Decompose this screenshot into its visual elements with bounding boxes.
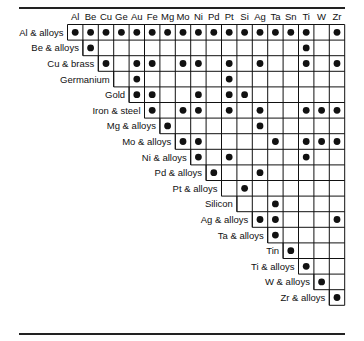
mark-ni-pt [226, 154, 233, 161]
mark-au-si [241, 91, 248, 98]
row-label: Mg & alloys [107, 120, 156, 131]
row-label: Ni & alloys [142, 152, 187, 163]
mark-mo-w [318, 138, 325, 145]
bottom-rule [19, 333, 345, 335]
mark-w-w [318, 279, 325, 286]
mark-fe-ag [257, 107, 264, 114]
row-label: Pd & alloys [155, 167, 203, 178]
mark-ag-ta [272, 216, 279, 223]
mark-sn-sn [287, 247, 294, 254]
column-header-al: Al [71, 11, 79, 22]
column-header-fe: Fe [147, 11, 158, 22]
mark-au-pt [226, 91, 233, 98]
column-header-mo: Mo [176, 11, 189, 22]
column-header-si: Si [240, 11, 248, 22]
column-header-w: W [317, 11, 326, 22]
row-label: Mo & alloys [122, 136, 171, 147]
column-header-mg: Mg [161, 11, 174, 22]
column-header-au: Au [131, 11, 143, 22]
row-label: Be & alloys [31, 42, 79, 53]
mark-cu-cu [103, 60, 110, 67]
row-label: Ti & alloys [251, 261, 295, 272]
mark-fe-pt [226, 107, 233, 114]
mark-mo-ta [272, 138, 279, 145]
column-header-ni: Ni [194, 11, 203, 22]
row-label: Ag & alloys [201, 214, 249, 225]
row-label: Zr & alloys [280, 292, 325, 303]
mark-al-pd [210, 29, 217, 36]
mark-al-fe [149, 29, 156, 36]
mark-al-al [72, 29, 79, 36]
row-label: Al & alloys [19, 27, 64, 38]
mark-pd-pd [210, 169, 217, 176]
mark-cu-zr [334, 60, 341, 67]
column-header-be: Be [85, 11, 97, 22]
mark-cu-ti [303, 60, 310, 67]
mark-cu-au [133, 60, 140, 67]
column-header-pt: Pt [225, 11, 234, 22]
mark-al-be [87, 29, 94, 36]
column-header-zr: Zr [333, 11, 342, 22]
mark-fe-fe [149, 107, 156, 114]
mark-au-ni [195, 91, 202, 98]
row-label: Gold [105, 89, 125, 100]
mark-cu-fe [149, 60, 156, 67]
mark-al-ge [118, 29, 125, 36]
mark-cu-ni [195, 60, 202, 67]
column-header-pd: Pd [208, 11, 220, 22]
mark-al-cu [103, 29, 110, 36]
compatibility-matrix: AlBeCuGeAuFeMgMoNiPdPtSiAgTaSnTiWZr Al &… [0, 0, 364, 341]
row-label: Cu & brass [47, 58, 94, 69]
column-header-cu: Cu [100, 11, 112, 22]
row-label: Silicon [205, 198, 233, 209]
mark-al-sn [287, 29, 294, 36]
mark-mg-mg [164, 123, 171, 130]
mark-al-pt [226, 29, 233, 36]
mark-fe-zr [334, 107, 341, 114]
mark-au-fe [149, 91, 156, 98]
column-headers: AlBeCuGeAuFeMgMoNiPdPtSiAgTaSnTiWZr [71, 11, 342, 22]
row-label: Germanium [60, 74, 110, 85]
mark-mo-zr [334, 138, 341, 145]
mark-au-au [133, 91, 140, 98]
mark-al-ta [272, 29, 279, 36]
mark-ag-ag [257, 216, 264, 223]
mark-be-ti [303, 45, 310, 52]
mark-al-ag [257, 29, 264, 36]
mark-al-mg [164, 29, 171, 36]
mark-fe-w [318, 107, 325, 114]
mark-cu-pt [226, 60, 233, 67]
mark-al-zr [334, 29, 341, 36]
mark-al-si [241, 29, 248, 36]
column-header-ge: Ge [115, 11, 128, 22]
grid-lines [68, 25, 345, 306]
column-header-ti: Ti [302, 11, 310, 22]
mark-ni-ti [303, 154, 310, 161]
mark-al-ni [195, 29, 202, 36]
mark-ge-au [133, 76, 140, 83]
mark-ge-pt [226, 76, 233, 83]
mark-mo-ni [195, 138, 202, 145]
mark-si-ta [272, 201, 279, 208]
mark-mg-ag [257, 123, 264, 130]
mark-ta-ta [272, 232, 279, 239]
mark-pt-si [241, 185, 248, 192]
mark-fe-ti [303, 107, 310, 114]
mark-cu-ag [257, 60, 264, 67]
mark-mo-ti [303, 138, 310, 145]
row-label: Pt & alloys [173, 183, 218, 194]
mark-al-au [133, 29, 140, 36]
mark-zr-zr [334, 294, 341, 301]
mark-fe-mo [180, 107, 187, 114]
mark-fe-ni [195, 107, 202, 114]
mark-mo-mo [180, 138, 187, 145]
row-label: Ta & alloys [218, 230, 264, 241]
row-label: Tin [266, 245, 279, 256]
row-label: Iron & steel [92, 105, 140, 116]
column-header-sn: Sn [285, 11, 297, 22]
column-header-ta: Ta [270, 11, 281, 22]
mark-be-be [87, 45, 94, 52]
mark-ni-ni [195, 154, 202, 161]
mark-al-ti [303, 29, 310, 36]
row-label: W & alloys [265, 276, 310, 287]
